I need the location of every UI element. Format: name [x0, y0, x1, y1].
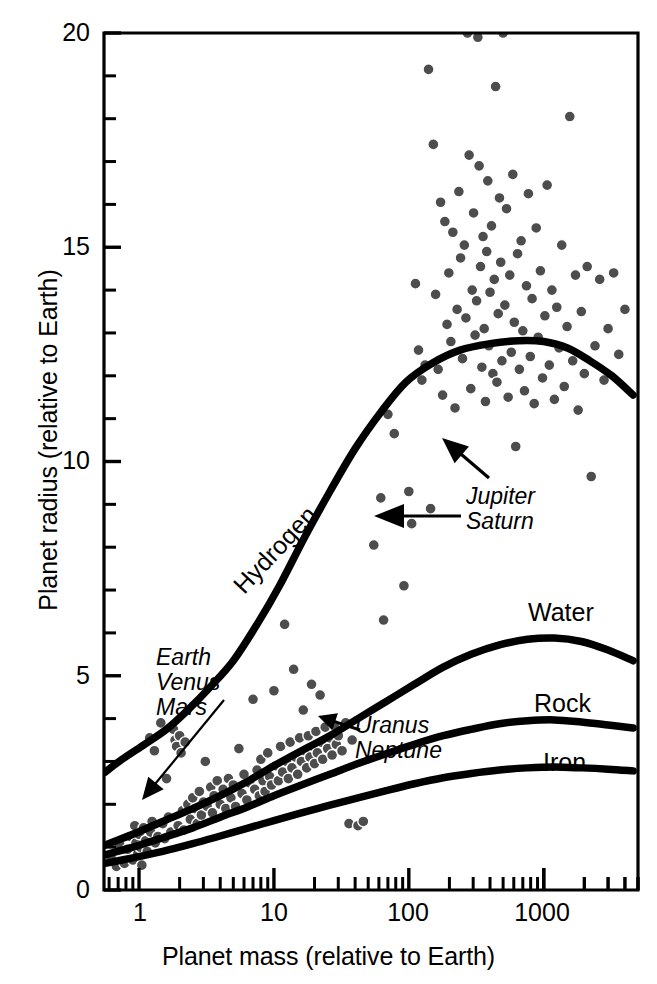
curve-label-water: Water	[528, 598, 594, 627]
planet-mass-radius-figure: 20 15 10 5 0 1 10 100 1000 Planet mass (…	[0, 0, 657, 984]
annotation-mars: Mars	[156, 695, 207, 720]
annotation-venus: Venus	[156, 670, 220, 695]
annotation-neptune: Neptune	[355, 738, 442, 763]
annotation-jupiter: Jupiter	[466, 484, 535, 509]
x-tick-label-10: 10	[234, 898, 314, 927]
x-axis-title: Planet mass (relative to Earth)	[0, 942, 657, 971]
curve-label-rock: Rock	[534, 689, 591, 718]
y-axis-title: Planet radius (relative to Earth)	[34, 0, 63, 880]
annotation-saturn: Saturn	[466, 509, 534, 534]
x-tick-label-1: 1	[100, 898, 180, 927]
x-tick-label-100: 100	[368, 898, 448, 927]
annotation-earth: Earth	[156, 645, 211, 670]
annotation-uranus: Uranus	[355, 713, 429, 738]
plot-canvas	[0, 0, 657, 984]
x-tick-label-1000: 1000	[502, 898, 582, 927]
curve-label-iron: Iron	[543, 748, 586, 777]
